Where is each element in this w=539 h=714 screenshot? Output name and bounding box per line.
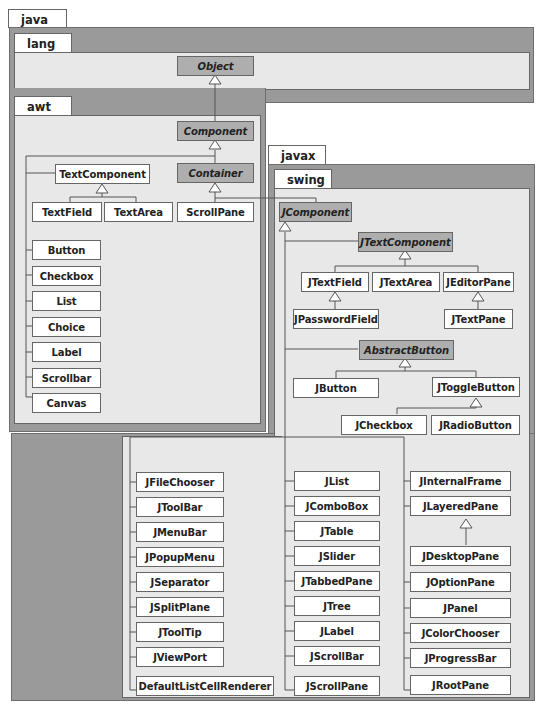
class-abstractbutton: AbstractButton — [359, 340, 454, 360]
class-jprogressbar: JProgressBar — [410, 648, 511, 668]
inherit-arrow — [472, 292, 484, 301]
class-jcheckbox: JCheckbox — [341, 415, 427, 435]
class-jtextarea: JTextArea — [372, 272, 440, 292]
class-jtabbedpane: JTabbedPane — [294, 571, 380, 591]
class-jlabel: JLabel — [294, 621, 380, 641]
inherit-arrow — [460, 519, 472, 528]
class-jbutton: JButton — [293, 378, 379, 398]
class-jseparator: JSeparator — [136, 572, 224, 592]
class-jtextcomponent: JTextComponent — [358, 232, 453, 252]
class-jlayeredpane: JLayeredPane — [410, 496, 511, 516]
inherit-arrow — [209, 183, 221, 192]
class-jeditorpane: JEditorPane — [443, 272, 514, 292]
inherit-arrow — [209, 140, 221, 149]
class-container: Container — [177, 163, 254, 183]
class-jtoolbar: JToolBar — [136, 497, 224, 517]
inherit-arrow — [279, 222, 291, 231]
class-jcombobox: JComboBox — [294, 496, 380, 516]
class-textfield: TextField — [32, 202, 102, 222]
class-textarea: TextArea — [104, 202, 173, 222]
class-jrootpane: JRootPane — [410, 675, 511, 695]
class-jcolorchooser: JColorChooser — [410, 623, 511, 643]
class-jtooltip: JToolTip — [136, 622, 224, 642]
class-jfilechooser: JFileChooser — [136, 472, 224, 492]
class-jtogglebutton: JToggleButton — [432, 377, 520, 397]
class-defaultlistcellrenderer: DefaultListCellRenderer — [136, 676, 274, 696]
class-jslider: JSlider — [294, 546, 380, 566]
class-jpanel: JPanel — [410, 598, 511, 618]
class-textcomponent: TextComponent — [55, 164, 150, 184]
class-jmenubar: JMenuBar — [136, 522, 224, 542]
class-component: Component — [177, 121, 254, 141]
class-choice: Choice — [32, 317, 101, 337]
class-jpasswordfield: JPasswordField — [293, 309, 379, 329]
class-jradiobutton: JRadioButton — [431, 415, 520, 435]
inherit-arrow — [329, 292, 341, 301]
inherit-arrow — [209, 75, 221, 84]
inherit-arrow — [96, 184, 108, 193]
class-jsplitplane: JSplitPlane — [136, 597, 224, 617]
class-scrollbar: Scrollbar — [32, 368, 101, 388]
class-jlist: JList — [294, 471, 380, 491]
class-canvas: Canvas — [32, 393, 101, 413]
class-jtextpane: JTextPane — [444, 309, 513, 329]
class-label: Label — [32, 342, 101, 362]
class-jcomponent: JComponent — [279, 202, 352, 222]
class-checkbox: Checkbox — [32, 266, 101, 286]
class-jtree: JTree — [294, 596, 380, 616]
class-joptionpane: JOptionPane — [410, 572, 511, 592]
class-object: Object — [177, 56, 254, 76]
class-button: Button — [32, 240, 101, 260]
class-jinternalframe: JInternalFrame — [410, 471, 511, 491]
class-jtable: JTable — [294, 521, 380, 541]
class-list: List — [32, 291, 101, 311]
class-jdesktoppane: JDesktopPane — [410, 546, 511, 566]
class-jviewport: JViewPort — [136, 647, 224, 667]
inherit-arrow — [470, 398, 482, 407]
class-jtextfield: JTextField — [301, 272, 369, 292]
class-scrollpane: ScrollPane — [177, 202, 254, 222]
class-jscrollbar: JScrollBar — [294, 646, 380, 666]
class-jscrollpane: JScrollPane — [294, 676, 380, 696]
class-jpopupmenu: JPopupMenu — [136, 547, 224, 567]
